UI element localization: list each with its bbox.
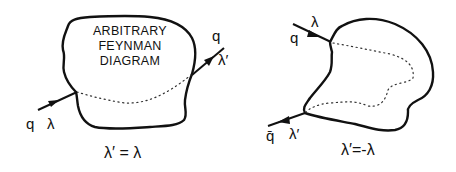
left-incoming-arrow-icon [48, 100, 59, 107]
right-blob-outline [304, 19, 433, 131]
right-outgoing-helicity-label: λ′ [289, 126, 299, 141]
diagram-canvas [0, 0, 456, 172]
right-incoming-arrow-icon [307, 30, 320, 37]
left-incoming-particle-label: q [26, 116, 34, 131]
right-incoming-particle-label: q [290, 30, 298, 45]
left-box-title-line-3: DIAGRAM [80, 54, 180, 69]
right-incoming-helicity-label: λ [311, 14, 319, 29]
left-outgoing-helicity-label: λ′ [218, 52, 228, 67]
left-outgoing-particle-label: q [212, 28, 220, 43]
left-dotted-path [77, 75, 191, 103]
left-box-title-line-2: FEYNMAN [80, 39, 180, 54]
left-box-title: ARBITRARY FEYNMAN DIAGRAM [80, 24, 180, 69]
left-incoming-helicity-label: λ [47, 116, 55, 131]
right-dotted-path [306, 43, 413, 112]
left-box-title-line-1: ARBITRARY [80, 24, 180, 39]
left-relation-label: λ′ = λ [104, 145, 141, 161]
right-outgoing-particle-label: q̄ [266, 128, 274, 143]
right-relation-label: λ′=-λ [341, 142, 375, 158]
